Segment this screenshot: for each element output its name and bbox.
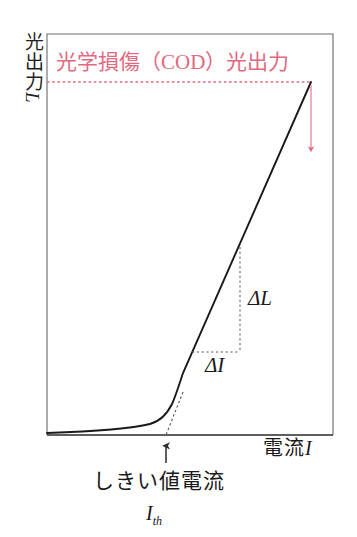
delta-l-label: ΔL xyxy=(248,288,272,309)
threshold-symbol-subscript: th xyxy=(153,514,162,528)
figure-root: 光出力L 光学損傷（COD）光出力 ΔL ΔI 電流I しきい値電流 Ith xyxy=(0,0,357,537)
threshold-symbol-base: I xyxy=(146,502,153,524)
x-axis-label-text: 電流 xyxy=(263,437,305,459)
y-axis-label-symbol: L xyxy=(22,92,43,104)
x-axis-label-symbol: I xyxy=(305,437,313,459)
y-axis-label-text: 光出力 xyxy=(22,32,43,92)
cod-caption: 光学損傷（COD）光出力 xyxy=(56,52,289,73)
delta-i-label: ΔI xyxy=(205,355,224,376)
threshold-caption: しきい値電流 xyxy=(93,471,225,492)
threshold-symbol: Ith xyxy=(146,503,162,527)
plot-frame xyxy=(47,34,333,435)
x-axis-label: 電流I xyxy=(263,438,313,458)
y-axis-label: 光出力L xyxy=(8,32,42,104)
li-curve xyxy=(47,82,311,433)
